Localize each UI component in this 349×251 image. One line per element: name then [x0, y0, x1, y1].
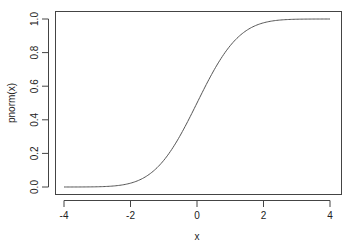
y-tick-label: 0.4 [29, 112, 40, 126]
y-tick-label: 0.2 [29, 146, 40, 160]
y-axis-label: pnorm(x) [6, 83, 17, 123]
x-axis: -4-2024 [60, 201, 334, 222]
y-tick-label: 0.6 [29, 79, 40, 93]
x-axis-label: x [195, 231, 200, 242]
y-axis: 0.00.20.40.60.81.0 [29, 12, 49, 194]
y-tick-label: 0.8 [29, 45, 40, 59]
plot-box [56, 12, 342, 195]
x-tick-label: -4 [60, 210, 69, 221]
x-tick-label: 2 [261, 210, 267, 221]
x-tick-label: 4 [327, 210, 333, 221]
x-tick-label: -2 [126, 210, 135, 221]
line-chart: 0.00.20.40.60.81.0 -4-2024 x pnorm(x) [0, 0, 349, 251]
x-tick-label: 0 [194, 210, 200, 221]
y-tick-label: 1.0 [29, 12, 40, 26]
y-tick-label: 0.0 [29, 180, 40, 194]
pnorm-curve [64, 19, 330, 187]
